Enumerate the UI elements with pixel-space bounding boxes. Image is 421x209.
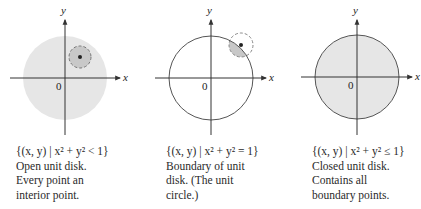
caption-line: Every point an xyxy=(16,173,109,188)
set-notation: {(x, y) | x² + y² ≤ 1} xyxy=(312,144,404,159)
unit-circle-panel: x y 0 xyxy=(155,4,274,135)
unit-circle-caption: {(x, y) | x² + y² = 1} Boundary of unit … xyxy=(166,144,259,202)
caption-line: boundary points. xyxy=(312,188,404,203)
caption-line: interior point. xyxy=(16,188,109,203)
y-axis-label: y xyxy=(206,4,212,16)
interior-point xyxy=(78,55,82,59)
caption-line: Open unit disk. xyxy=(16,159,109,174)
caption-line: Closed unit disk. xyxy=(312,159,404,174)
caption-line: Boundary of unit xyxy=(166,159,259,174)
y-axis-label: y xyxy=(60,4,66,16)
set-notation: {(x, y) | x² + y² < 1} xyxy=(16,144,109,159)
origin-label: 0 xyxy=(56,80,62,92)
closed-disk-panel: x y 0 xyxy=(301,4,420,135)
caption-line: Contains all xyxy=(312,173,404,188)
set-notation: {(x, y) | x² + y² = 1} xyxy=(166,144,259,159)
unit-disk-figure: x y 0 x y 0 x y 0 xyxy=(0,0,421,140)
origin-label: 0 xyxy=(202,80,208,92)
boundary-point xyxy=(239,43,243,47)
caption-line: disk. (The unit xyxy=(166,173,259,188)
x-axis-label: x xyxy=(414,70,420,82)
open-disk-caption: {(x, y) | x² + y² < 1} Open unit disk. E… xyxy=(16,144,109,202)
x-axis-label: x xyxy=(268,71,274,83)
closed-disk-caption: {(x, y) | x² + y² ≤ 1} Closed unit disk.… xyxy=(312,144,404,202)
origin-label: 0 xyxy=(348,79,354,91)
x-axis-label: x xyxy=(122,71,128,83)
open-disk-panel: x y 0 xyxy=(10,4,128,135)
y-axis-label: y xyxy=(352,4,358,16)
caption-line: circle.) xyxy=(166,188,259,203)
